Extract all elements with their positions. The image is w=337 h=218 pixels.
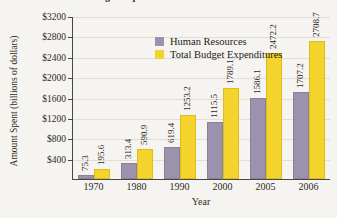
bar-group: 75.3195.6 bbox=[78, 17, 110, 179]
bar-total-budget-expenditures[interactable]: 195.6 bbox=[94, 169, 110, 179]
bar-total-budget-expenditures[interactable]: 2472.2 bbox=[266, 53, 282, 179]
y-axis-tick-label: $2800 bbox=[42, 32, 66, 42]
bar-human-resources[interactable]: 1115.5 bbox=[207, 122, 223, 179]
bar-value-label: 75.3 bbox=[81, 155, 90, 171]
bar-human-resources[interactable]: 1707.2 bbox=[293, 92, 309, 179]
bar-value-label: 1789.1 bbox=[226, 59, 235, 84]
x-axis-title: Year bbox=[72, 196, 330, 207]
y-axis-tick-label: $400 bbox=[47, 155, 66, 165]
bar-human-resources[interactable]: 313.4 bbox=[121, 163, 137, 179]
x-axis-tick-label: 2006 bbox=[289, 181, 329, 192]
x-axis-tick-label: 2005 bbox=[246, 181, 286, 192]
bar-total-budget-expenditures[interactable]: 590.9 bbox=[137, 149, 153, 179]
bar-human-resources[interactable]: 619.4 bbox=[164, 147, 180, 179]
legend-swatch-icon-total-budget-expenditures bbox=[155, 50, 164, 59]
x-axis-tick-label: 2000 bbox=[203, 181, 243, 192]
bar-value-label: 619.4 bbox=[167, 123, 176, 143]
bar-total-budget-expenditures[interactable]: 2708.7 bbox=[309, 41, 325, 179]
bar-value-label: 2708.7 bbox=[312, 12, 321, 37]
bar-value-label: 313.4 bbox=[124, 139, 133, 159]
bar-group: 1707.22708.7 bbox=[293, 17, 325, 179]
bar-value-label: 1115.5 bbox=[210, 94, 219, 118]
legend-label-human-resources: Human Resources bbox=[170, 36, 247, 47]
chart-title: Total Budget Expenditures vs. Human Reso… bbox=[0, 0, 337, 2]
plot-area: $400$800$1200$1600$2000$2400$2800$3200 7… bbox=[72, 17, 330, 180]
x-axis-tick-label: 1970 bbox=[74, 181, 114, 192]
bar-value-label: 590.9 bbox=[140, 125, 149, 145]
bar-total-budget-expenditures[interactable]: 1789.1 bbox=[223, 88, 239, 179]
bar-value-label: 1253.2 bbox=[183, 86, 192, 111]
legend: Human Resources Total Budget Expenditure… bbox=[155, 36, 282, 60]
bar-value-label: 1707.2 bbox=[296, 63, 305, 88]
x-axis-tick-label: 1980 bbox=[117, 181, 157, 192]
y-axis-tick-label: $1600 bbox=[42, 94, 66, 104]
legend-item-total-budget-expenditures: Total Budget Expenditures bbox=[155, 49, 282, 60]
y-axis-tick-label: $2400 bbox=[42, 53, 66, 63]
y-axis-tick-label: $3200 bbox=[42, 12, 66, 22]
y-axis-tick-label: $1200 bbox=[42, 114, 66, 124]
bar-value-label: 1586.1 bbox=[253, 69, 262, 94]
bar-human-resources[interactable]: 1586.1 bbox=[250, 98, 266, 179]
bar-human-resources[interactable]: 75.3 bbox=[78, 175, 94, 179]
bar-total-budget-expenditures[interactable]: 1253.2 bbox=[180, 115, 196, 179]
legend-swatch-icon-human-resources bbox=[155, 37, 164, 46]
y-axis-tick-label: $800 bbox=[47, 134, 66, 144]
bar-group: 313.4590.9 bbox=[121, 17, 153, 179]
x-axis-ticks: 197019801990200020052006 bbox=[72, 181, 330, 192]
x-axis-tick-label: 1990 bbox=[160, 181, 200, 192]
legend-label-total-budget-expenditures: Total Budget Expenditures bbox=[170, 49, 282, 60]
y-axis-tick-label: $2000 bbox=[42, 73, 66, 83]
bar-value-label: 195.6 bbox=[97, 145, 106, 165]
legend-item-human-resources: Human Resources bbox=[155, 36, 282, 47]
y-axis-title: Amount Spent (billions of dollars) bbox=[9, 13, 19, 189]
